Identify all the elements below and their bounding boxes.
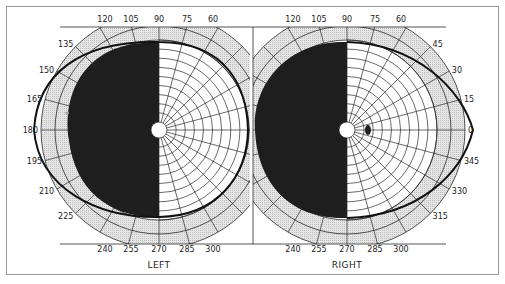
angle-label: 135 (58, 40, 73, 49)
angle-label: 60 (208, 15, 218, 24)
angle-label: 300 (393, 245, 408, 254)
left-eye-label: LEFT (147, 260, 170, 270)
angle-label: 90 (342, 15, 352, 24)
angle-label: 240 (97, 245, 112, 254)
angle-label: 105 (311, 15, 326, 24)
angle-label: 105 (123, 15, 138, 24)
angle-label: 0 (468, 126, 473, 135)
angle-label: 300 (205, 245, 220, 254)
angle-label: 120 (97, 15, 112, 24)
angle-label: 15 (464, 95, 474, 104)
angle-label: 30 (452, 66, 462, 75)
angle-label: 285 (179, 245, 194, 254)
angle-label: 90 (154, 15, 164, 24)
angle-label: 45 (433, 40, 443, 49)
angle-label: 210 (39, 187, 54, 196)
angle-label: 255 (123, 245, 138, 254)
angle-label: 240 (285, 245, 300, 254)
angle-label: 195 (27, 157, 42, 166)
visual-field-diagram: 1201059075601351501651801952102252402552… (0, 0, 505, 284)
angle-label: 75 (182, 15, 192, 24)
angle-label: 345 (464, 157, 479, 166)
angle-label: 165 (27, 95, 42, 104)
faint-mark (65, 112, 69, 115)
blind-spot (365, 125, 371, 135)
angle-label: 285 (367, 245, 382, 254)
angle-label: 75 (370, 15, 380, 24)
angle-label: 270 (339, 245, 354, 254)
angle-label: 270 (151, 245, 166, 254)
angle-label: 315 (433, 212, 448, 221)
angle-label: 180 (23, 126, 38, 135)
angle-label: 330 (452, 187, 467, 196)
angle-label: 150 (39, 66, 54, 75)
angle-label: 225 (58, 212, 73, 221)
angle-label: 60 (396, 15, 406, 24)
angle-label: 120 (285, 15, 300, 24)
right-eye-label: RIGHT (332, 260, 363, 270)
angle-label: 255 (311, 245, 326, 254)
